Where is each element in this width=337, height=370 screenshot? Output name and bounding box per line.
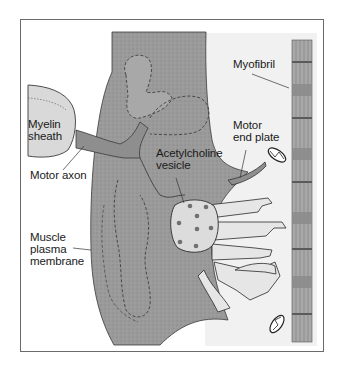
label-acetylcholine-vesicle-line2: vesicle <box>156 159 190 172</box>
diagram-illustration <box>0 0 337 370</box>
label-myelin-sheath-line1: Myelin <box>28 118 61 131</box>
myofibril-shape <box>292 40 312 342</box>
label-muscle-plasma-membrane-line3: membrane <box>30 255 84 268</box>
label-motor-end-plate-line2: end plate <box>233 131 279 144</box>
label-myelin-sheath-line2: sheath <box>28 130 62 143</box>
label-acetylcholine-vesicle-line1: Acetylcholine <box>156 147 222 160</box>
label-motor-axon: Motor axon <box>30 169 87 182</box>
label-muscle-plasma-membrane-line1: Muscle <box>30 231 66 244</box>
label-myofibril: Myofibril <box>233 58 275 71</box>
neuromuscular-junction-figure: Myofibril Myelin sheath Motor end plate … <box>0 0 337 370</box>
label-muscle-plasma-membrane-line2: plasma <box>30 243 66 256</box>
label-motor-end-plate-line1: Motor <box>233 119 262 132</box>
